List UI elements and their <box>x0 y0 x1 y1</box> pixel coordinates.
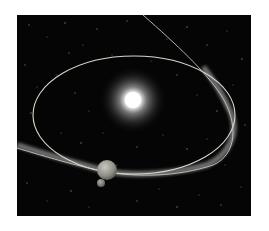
space-illustration <box>17 15 251 216</box>
planet <box>97 160 117 180</box>
moon <box>97 179 105 187</box>
sun <box>99 66 167 134</box>
space-scene: Space illustration: bright sun at center… <box>17 15 251 216</box>
